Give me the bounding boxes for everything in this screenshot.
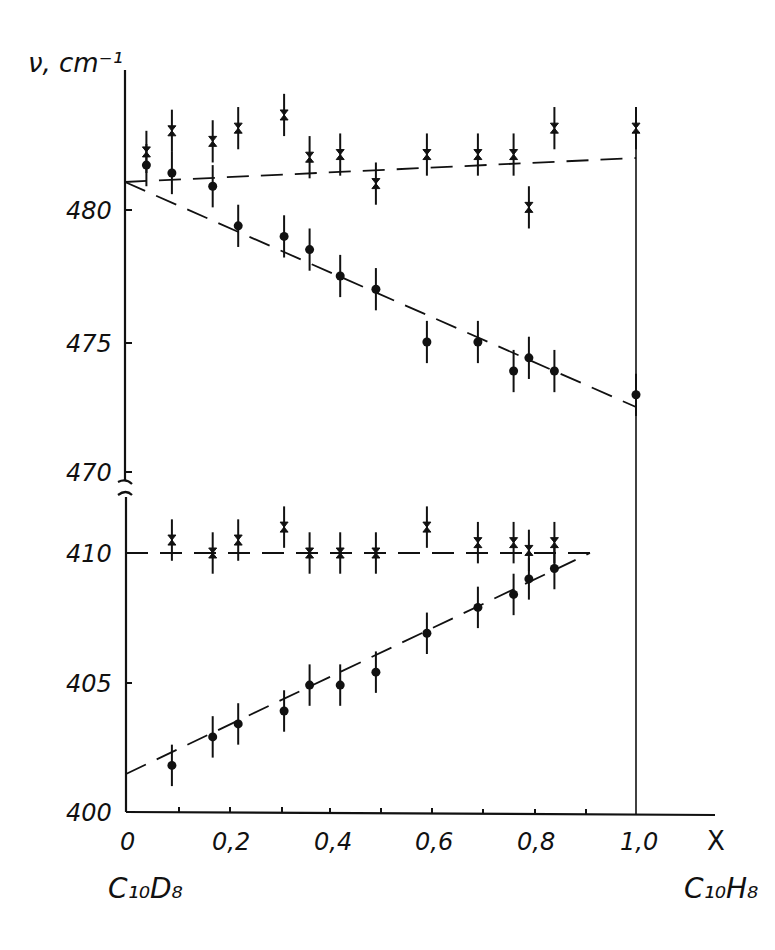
svg-text:1,0: 1,0 <box>620 828 658 856</box>
circle-marker <box>550 367 559 376</box>
cross-marker <box>209 136 217 146</box>
fit-line-upper-circle <box>125 182 636 407</box>
cross-marker <box>280 110 288 120</box>
circle-marker <box>234 719 243 728</box>
cross-marker <box>336 150 344 160</box>
circle-marker <box>371 668 380 677</box>
data-markers <box>142 94 641 786</box>
cross-marker <box>234 123 242 133</box>
svg-text:470: 470 <box>66 459 112 487</box>
axis-break-mark-top <box>118 480 132 484</box>
svg-text:0,6: 0,6 <box>415 828 453 856</box>
cross-marker <box>306 152 314 162</box>
circle-marker <box>336 681 345 690</box>
label-c10h8: C₁₀H₈ <box>684 872 758 905</box>
cross-marker <box>423 150 431 160</box>
circle-marker <box>509 590 518 599</box>
circle-marker <box>234 221 243 230</box>
circle-marker <box>305 245 314 254</box>
svg-text:400: 400 <box>66 799 112 827</box>
cross-marker <box>510 150 518 160</box>
svg-text:475: 475 <box>66 330 112 358</box>
svg-text:0: 0 <box>120 828 135 856</box>
circle-marker <box>632 390 641 399</box>
circle-marker <box>208 182 217 191</box>
svg-text:480: 480 <box>66 197 112 225</box>
cross-marker <box>525 202 533 212</box>
cross-marker <box>525 545 533 555</box>
svg-text:405: 405 <box>66 670 112 698</box>
circle-marker <box>167 169 176 178</box>
y-ticks-lower: 410 405 400 <box>66 540 132 827</box>
svg-text:0,4: 0,4 <box>314 828 352 856</box>
circle-marker <box>524 574 533 583</box>
y-axis-label: ν, cm⁻¹ <box>28 48 123 78</box>
circle-marker <box>473 338 482 347</box>
circle-marker <box>305 681 314 690</box>
circle-marker <box>473 603 482 612</box>
y-ticks-upper: 480 475 470 <box>66 197 132 487</box>
cross-marker <box>280 522 288 532</box>
cross-marker <box>168 535 176 545</box>
x-axis <box>126 812 715 815</box>
chart-figure: ν, cm⁻¹ 480 475 470 410 405 400 0 0,2 <box>0 0 775 950</box>
cross-marker <box>550 538 558 548</box>
svg-text:0,2: 0,2 <box>212 828 250 856</box>
circle-marker <box>509 367 518 376</box>
circle-marker <box>550 564 559 573</box>
axis-break-mark-bottom <box>118 492 132 495</box>
label-c10d8: C₁₀D₈ <box>108 872 183 905</box>
cross-marker <box>510 538 518 548</box>
circle-marker <box>208 732 217 741</box>
circle-marker <box>280 706 289 715</box>
cross-marker <box>234 535 242 545</box>
circle-marker <box>524 353 533 362</box>
x-axis-label: X <box>707 826 725 856</box>
cross-marker <box>168 126 176 136</box>
cross-marker <box>632 123 640 133</box>
fit-line-lower-circle <box>126 553 590 774</box>
circle-marker <box>336 272 345 281</box>
circle-marker <box>422 629 431 638</box>
circle-marker <box>142 161 151 170</box>
svg-text:410: 410 <box>66 540 112 568</box>
circle-marker <box>280 232 289 241</box>
svg-text:0,8: 0,8 <box>517 828 555 856</box>
circle-marker <box>422 338 431 347</box>
cross-marker <box>423 522 431 532</box>
circle-marker <box>167 761 176 770</box>
cross-marker <box>474 150 482 160</box>
cross-marker <box>550 123 558 133</box>
cross-marker <box>372 179 380 189</box>
cross-marker <box>474 538 482 548</box>
circle-marker <box>371 285 380 294</box>
